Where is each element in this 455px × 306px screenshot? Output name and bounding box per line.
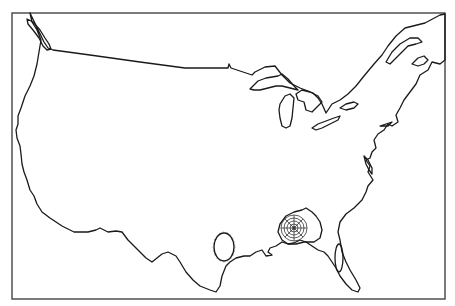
lake-ontario: [340, 102, 358, 110]
lake-michigan: [279, 94, 294, 128]
lake-huron: [296, 90, 322, 112]
georgia-contour-rings: [278, 208, 322, 244]
us-outline: [16, 13, 445, 292]
gulf-coast-ellipse: [213, 232, 235, 262]
bay-of-fundy: [412, 56, 428, 66]
map-frame: [12, 13, 445, 299]
lake-okeechobee: [335, 244, 343, 272]
map-container: Outline map of the contiguous United Sta…: [0, 0, 455, 306]
lake-superior: [250, 74, 298, 90]
lake-erie: [312, 116, 340, 130]
